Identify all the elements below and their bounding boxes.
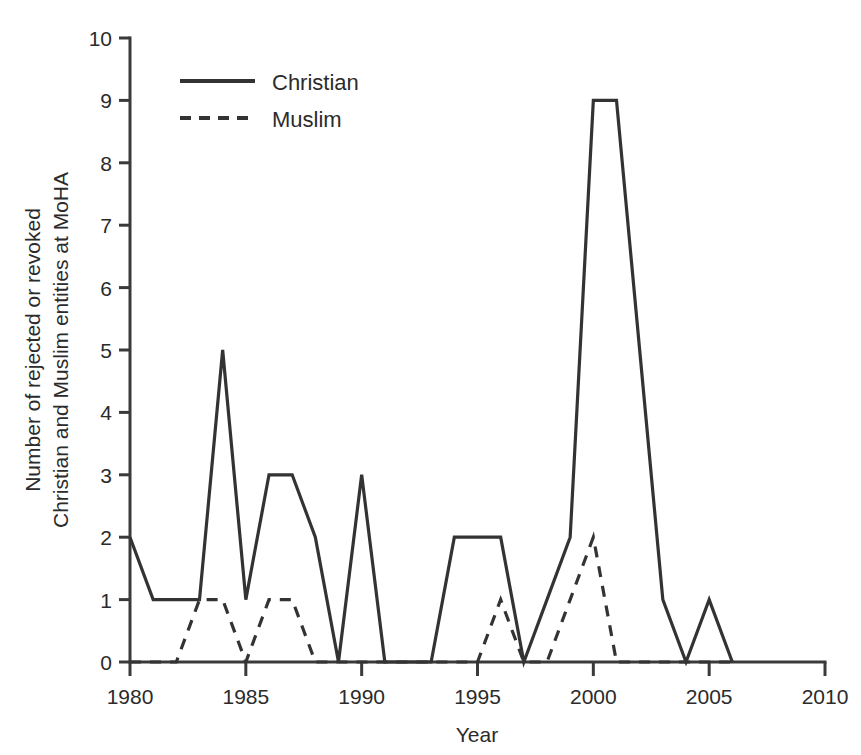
y-axis-label-line2: Christian and Muslim entities at MoHA <box>49 172 72 528</box>
y-tick-label: 1 <box>100 589 112 612</box>
y-tick-label: 2 <box>100 526 112 549</box>
x-tick-label: 2000 <box>570 685 617 708</box>
y-tick-label: 9 <box>100 89 112 112</box>
y-tick-label: 8 <box>100 152 112 175</box>
x-tick-label: 1990 <box>338 685 385 708</box>
x-tick-label: 1995 <box>454 685 501 708</box>
x-tick-label: 1980 <box>107 685 154 708</box>
legend-label-christian: Christian <box>272 70 359 95</box>
y-tick-label: 3 <box>100 464 112 487</box>
legend-label-muslim: Muslim <box>272 107 342 132</box>
x-axis-label: Year <box>456 723 498 746</box>
y-tick-label: 7 <box>100 214 112 237</box>
y-tick-label: 6 <box>100 277 112 300</box>
x-tick-label: 1985 <box>222 685 269 708</box>
x-tick-label: 2005 <box>686 685 733 708</box>
line-chart: Number of rejected or revoked Christian … <box>0 0 861 755</box>
y-tick-label: 4 <box>100 401 112 424</box>
y-tick-label: 5 <box>100 339 112 362</box>
chart-figure: Number of rejected or revoked Christian … <box>0 0 861 755</box>
y-axis-label-line1: Number of rejected or revoked <box>21 208 44 492</box>
y-tick-label: 10 <box>89 27 112 50</box>
x-tick-label: 2010 <box>802 685 849 708</box>
y-tick-label: 0 <box>100 651 112 674</box>
